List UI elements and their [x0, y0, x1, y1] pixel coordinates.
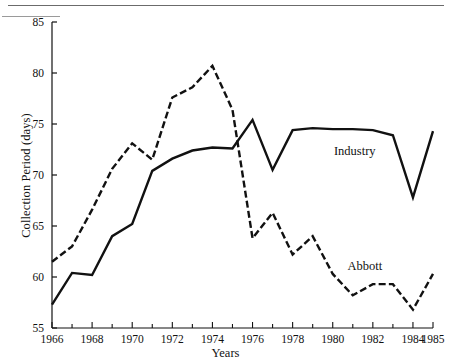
x-tick-label: 1985 — [422, 333, 445, 345]
series-line-abbott — [52, 66, 433, 310]
series-line-industry — [52, 120, 433, 305]
x-tick-label: 1966 — [41, 333, 64, 345]
x-tick-label: 1978 — [281, 333, 304, 345]
figure-page: 55606570758085 1966196819701972197419761… — [0, 0, 451, 362]
x-tick-label: 1976 — [241, 333, 264, 345]
y-tick-label: 70 — [33, 169, 45, 181]
y-tick-label: 65 — [33, 220, 45, 232]
y-tick-label: 75 — [33, 118, 45, 130]
x-tick-label: 1970 — [121, 333, 144, 345]
series-label-abbott: Abbott — [347, 259, 382, 273]
y-axis-title: Collection Period (days) — [19, 76, 34, 276]
chart-axes: 55606570758085 1966196819701972197419761… — [33, 16, 445, 345]
series-label-industry: Industry — [334, 144, 376, 158]
x-axis-ticks: 1966196819701972197419761978198019821984… — [41, 322, 445, 345]
x-tick-label: 1968 — [81, 333, 104, 345]
line-chart: 55606570758085 1966196819701972197419761… — [0, 0, 451, 362]
y-tick-label: 60 — [33, 271, 45, 283]
x-tick-label: 1974 — [201, 333, 224, 345]
series-annotations: IndustryAbbott — [334, 144, 383, 273]
x-tick-label: 1980 — [321, 333, 344, 345]
x-tick-label: 1982 — [361, 333, 384, 345]
x-tick-label: 1972 — [161, 333, 184, 345]
chart-series — [52, 66, 433, 310]
x-axis-title: Years — [0, 346, 451, 361]
y-axis-ticks: 55606570758085 — [33, 16, 58, 334]
y-tick-label: 80 — [33, 67, 45, 79]
y-tick-label: 85 — [33, 16, 45, 28]
